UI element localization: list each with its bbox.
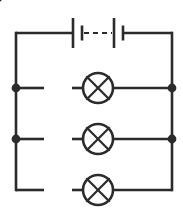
lamp-one	[83, 73, 113, 103]
circuit-frame	[16, 32, 172, 192]
circuit-diagram-canvas	[0, 0, 183, 218]
branch-three	[0, 0, 172, 205]
branch-one	[0, 0, 172, 103]
lamp-three	[83, 175, 113, 205]
node-right-branch-two	[168, 135, 177, 144]
node-left-branch-one	[12, 84, 21, 93]
node-left-branch-two	[12, 135, 21, 144]
node-right-branch-one	[168, 84, 177, 93]
lamp-two	[83, 124, 113, 154]
circuit-diagram	[0, 0, 183, 218]
battery-symbol	[73, 18, 123, 48]
